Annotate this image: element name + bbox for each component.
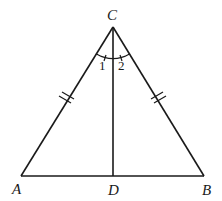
triangle-diagram: C A D B 1 2 (0, 0, 222, 201)
segment-ac (21, 27, 113, 176)
label-b: B (202, 182, 211, 198)
angle-1-label: 1 (99, 58, 106, 73)
label-d: D (107, 182, 119, 198)
segment-bc (113, 27, 204, 176)
angle-2-label: 2 (118, 58, 125, 73)
label-a: A (11, 181, 22, 197)
label-c: C (107, 7, 118, 23)
